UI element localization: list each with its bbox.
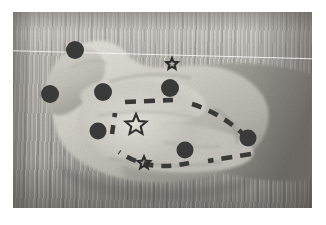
hand-photograph: [13, 12, 312, 208]
photo-grain-layer: [13, 12, 312, 208]
screenshot-canvas: [0, 0, 326, 225]
